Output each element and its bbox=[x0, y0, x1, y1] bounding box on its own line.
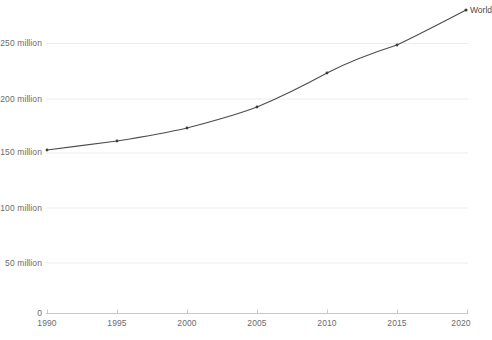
gridlines bbox=[46, 44, 468, 264]
x-axis-ticks bbox=[48, 310, 468, 314]
y-tick-label-50m: 50 million bbox=[5, 258, 42, 268]
x-tick-label-2015: 2015 bbox=[377, 318, 417, 328]
y-tick-label-200m: 200 million bbox=[0, 94, 42, 104]
y-tick-label-250m: 250 million bbox=[0, 38, 42, 48]
x-tick-label-2000: 2000 bbox=[167, 318, 207, 328]
x-tick-label-2005: 2005 bbox=[237, 318, 277, 328]
series-label-world: World bbox=[470, 5, 492, 15]
y-tick-label-100m: 100 million bbox=[0, 203, 42, 213]
x-tick-label-1990: 1990 bbox=[27, 318, 67, 328]
x-tick-label-1995: 1995 bbox=[97, 318, 137, 328]
x-tick-label-2020: 2020 bbox=[441, 318, 481, 328]
series-markers-world bbox=[46, 8, 468, 151]
y-tick-label-0: 0 bbox=[37, 308, 42, 318]
series-line-world bbox=[47, 10, 466, 150]
x-tick-label-2010: 2010 bbox=[307, 318, 347, 328]
y-tick-label-150m: 150 million bbox=[0, 147, 42, 157]
